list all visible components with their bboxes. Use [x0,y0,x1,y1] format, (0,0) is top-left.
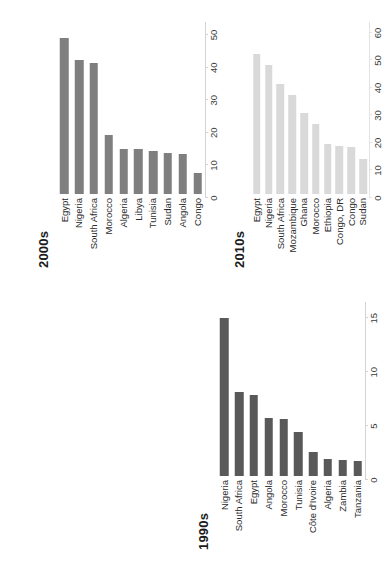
bar [134,149,143,194]
bar-row: Côte d'Ivoire [306,302,321,552]
plot-area-2000s: EgyptNigeriaSouth AfricaMoroccoAlgeriaLi… [57,22,205,270]
axis-tick-label: 40 [208,62,219,73]
bar-track [101,22,116,194]
bar-row: Congo [190,22,205,270]
bar-track [87,22,102,194]
bar [336,146,344,194]
axis-tick-label: 15 [368,313,379,324]
axis-tick-label: 40 [372,83,383,94]
bar-row: Angola [175,22,190,270]
bar-track [334,22,346,194]
bar-row: Tunisia [146,22,161,270]
chart-title-2010s: 2010s [232,22,247,268]
bar-row: Zambia [335,302,350,552]
plot-area-1990s: NigeriaSouth AfricaEgyptAngolaMoroccoTun… [217,302,365,552]
category-label: Egypt [60,194,70,270]
axis-tick-label: 10 [368,367,379,378]
bar-row: Nigeria [263,22,275,270]
bar [164,153,173,194]
category-label: South Africa [234,476,244,552]
bar [105,135,114,194]
bar [300,113,308,194]
bar-track [190,22,205,194]
category-label: Tanzania [353,476,363,552]
bar [60,38,69,194]
bar [265,418,274,476]
bar-row: Nigeria [72,22,87,270]
bar-row: Sudan [357,22,369,270]
category-label: Sudan [358,194,368,270]
bar-track [175,22,190,194]
category-label: Zambia [338,476,348,552]
bar-row: Egypt [247,302,262,552]
category-label: South Africa [89,194,99,270]
bar-row: South Africa [232,302,247,552]
bar-row: Egypt [57,22,72,270]
bar-track [310,22,322,194]
bar-track [57,22,72,194]
bar-track [350,302,365,476]
x-axis-2010s: 0102030405060 [369,22,384,198]
bar-row: Nigeria [217,302,232,552]
bar-row: Congo [345,22,357,270]
bar-track [286,22,298,194]
bar [119,149,128,194]
category-label: Sudan [163,194,173,270]
bar-track [276,302,291,476]
bar [277,84,285,194]
bar-track [275,22,287,194]
bar-track [251,22,263,194]
chart-title-1990s: 1990s [196,302,211,550]
bar-track [72,22,87,194]
bar-track [146,22,161,194]
bar-track [322,22,334,194]
bar-track [298,22,310,194]
category-label: Nigeria [220,476,230,552]
axis-tick-label: 10 [372,165,383,176]
bar-track [345,22,357,194]
bar-track [217,302,232,476]
chart-panel-1990s: 1990s NigeriaSouth AfricaEgyptAngolaMoro… [196,302,382,552]
category-label: Mozambique [288,194,298,270]
bar-track [261,302,276,476]
chart-panel-2000s: 2000s EgyptNigeriaSouth AfricaMoroccoAlg… [36,22,222,270]
bar-row: Algeria [116,22,131,270]
bar [220,318,229,476]
bar-track [321,302,336,476]
bar-track [335,302,350,476]
axis-tick-label: 20 [372,138,383,149]
bar-track [306,302,321,476]
bar [279,419,288,476]
x-axis-2000s: 01020304050 [205,22,220,198]
bar [294,432,303,476]
category-label: Libya [134,194,144,270]
category-label: Egypt [249,476,259,552]
chart-title-2000s: 2000s [36,22,51,268]
x-axis-1990s: 051015 [365,302,380,480]
category-label: Tunisia [294,476,304,552]
category-label: Congo [193,194,203,270]
bar [348,147,356,194]
category-label: Morocco [279,476,289,552]
bar-row: Algeria [321,302,336,552]
bar-row: Libya [131,22,146,270]
bar [339,460,348,476]
chart-panel-2010s: 2010s EgyptNigeriaSouth AfricaMozambique… [232,22,382,270]
bar [253,54,261,194]
category-label: Angola [178,194,188,270]
axis-tick-label: 0 [368,477,379,482]
category-label: Nigeria [264,194,274,270]
category-label: Morocco [104,194,114,270]
bar [90,63,99,194]
bar-track [357,22,369,194]
category-label: Egypt [252,194,262,270]
axis-tick-label: 60 [372,28,383,39]
bar [250,395,259,476]
axis-tick-label: 50 [372,55,383,66]
axis-tick-label: 30 [372,110,383,121]
bar [289,95,297,194]
bar-row: Sudan [161,22,176,270]
category-label: Ghana [299,194,309,270]
bar [149,151,158,194]
category-label: Congo [347,194,357,270]
